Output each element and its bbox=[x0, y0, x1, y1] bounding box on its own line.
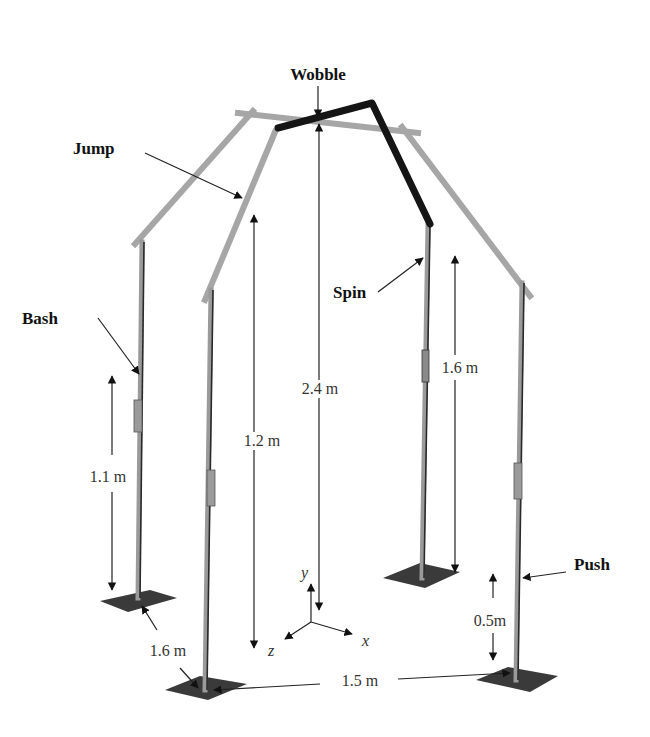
wobble-bar bbox=[278, 103, 430, 224]
y-axis-label: y bbox=[299, 564, 309, 582]
base-plates bbox=[100, 563, 558, 700]
svg-text:1.6 m: 1.6 m bbox=[442, 359, 479, 376]
dimension-1-2m: 1.2 m bbox=[244, 215, 281, 648]
svg-text:1.1 m: 1.1 m bbox=[90, 468, 127, 485]
x-axis-arrow bbox=[311, 622, 352, 634]
svg-text:0.5m: 0.5m bbox=[474, 612, 507, 629]
svg-text:2.4 m: 2.4 m bbox=[302, 380, 339, 397]
label-jump: Jump bbox=[73, 139, 115, 158]
z-axis-arrow bbox=[285, 622, 311, 639]
dimension-2-4m: 2.4 m bbox=[302, 124, 339, 610]
x-axis-label: x bbox=[361, 632, 369, 649]
z-axis-label: z bbox=[267, 642, 275, 659]
dimension-1-5m: 1.5 m bbox=[214, 672, 510, 690]
label-wobble: Wobble bbox=[290, 65, 346, 84]
label-spin: Spin bbox=[333, 283, 367, 302]
dimension-1-6m-vertical: 1.6 m bbox=[442, 256, 479, 572]
frame-diagram: Wobble Jump Bash Spin Push 2.4 m 1.2 m 1… bbox=[0, 0, 650, 737]
dimension-1-1m: 1.1 m bbox=[90, 376, 127, 590]
dimension-0-5m: 0.5m bbox=[474, 574, 507, 660]
label-bash: Bash bbox=[22, 309, 58, 328]
label-push: Push bbox=[574, 555, 610, 574]
dimension-1-6m-depth: 1.6 m bbox=[142, 606, 198, 688]
axes-triad: y x z bbox=[267, 564, 369, 659]
frame-light bbox=[134, 111, 530, 690]
svg-text:1.6 m: 1.6 m bbox=[150, 642, 187, 659]
svg-text:1.5 m: 1.5 m bbox=[342, 672, 379, 689]
svg-text:1.2 m: 1.2 m bbox=[244, 432, 281, 449]
